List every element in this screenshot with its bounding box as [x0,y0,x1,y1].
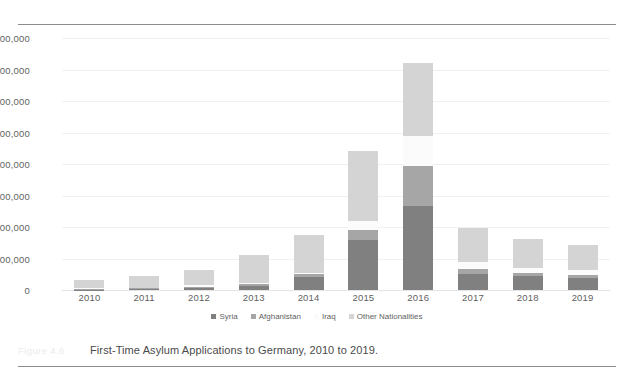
bar-2018 [513,239,543,290]
legend-item-other-nationalities[interactable]: Other Nationalities [349,312,423,321]
top-divider-rule [18,24,616,25]
y-tick-label: 100,000 [0,253,30,264]
x-tick-label-2014: 2014 [281,292,337,303]
bar-segment-syria [403,206,433,290]
legend-label: Iraq [322,312,336,321]
bar-segment-other-nationalities [184,270,214,285]
bar-2013 [239,255,269,290]
y-tick-label: 500,000 [0,127,30,138]
bar-segment-afghanistan [403,166,433,206]
x-tick-label-2013: 2013 [226,292,282,303]
legend-item-afghanistan[interactable]: Afghanistan [251,312,301,321]
legend-label: Afghanistan [259,312,301,321]
bar-segment-syria [513,276,543,290]
x-tick-label-2012: 2012 [171,292,227,303]
bar-segment-other-nationalities [568,245,598,270]
y-tick-label: 800,000 [0,33,30,44]
plot-area: 800,000700,000600,000500,000400,000300,0… [62,38,610,290]
bar-segment-other-nationalities [74,280,104,288]
x-tick-label-2018: 2018 [500,292,556,303]
bar-2016 [403,63,433,290]
bar-segment-syria [348,240,378,290]
y-tick-label: 0 [0,285,30,296]
x-tick-label-2015: 2015 [335,292,391,303]
x-tick-label-2016: 2016 [390,292,446,303]
y-tick-label: 300,000 [0,190,30,201]
x-tick-label-2017: 2017 [445,292,501,303]
legend-swatch-icon [349,314,354,319]
bar-segment-syria [129,289,159,290]
y-tick-label: 600,000 [0,96,30,107]
bar-segment-other-nationalities [348,151,378,221]
bar-segment-syria [239,286,269,290]
bar-segment-other-nationalities [129,276,159,288]
y-tick-label: 700,000 [0,64,30,75]
bar-segment-other-nationalities [294,235,324,272]
chart-area: 800,000700,000600,000500,000400,000300,0… [0,30,634,292]
legend-swatch-icon [251,314,256,319]
legend-item-syria[interactable]: Syria [211,312,237,321]
bar-segment-syria [184,288,214,290]
bar-2017 [458,228,488,290]
legend-item-iraq[interactable]: Iraq [314,312,336,321]
bar-2010 [74,280,104,290]
x-tick-label-2011: 2011 [116,292,172,303]
bar-segment-other-nationalities [403,63,433,136]
bar-segment-syria [458,274,488,290]
gridline [62,290,610,291]
bar-2019 [568,245,598,290]
bar-segment-other-nationalities [513,239,543,268]
bar-segment-afghanistan [348,230,378,240]
bar-2014 [294,235,324,290]
bar-2011 [129,276,159,290]
x-axis-tick-labels: 2010201120122013201420152016201720182019 [62,292,610,310]
chart-legend: SyriaAfghanistanIraqOther Nationalities [0,312,634,321]
bottom-divider-rule [18,366,616,367]
figure-number-label: Figure 4.6 [18,345,90,356]
legend-swatch-icon [314,314,319,319]
legend-label: Other Nationalities [357,312,423,321]
bar-segment-iraq [458,262,488,269]
legend-label: Syria [219,312,237,321]
bar-2015 [348,151,378,290]
figure-caption-text: First-Time Asylum Applications to German… [90,344,378,356]
bar-segment-syria [294,277,324,290]
y-tick-label: 400,000 [0,159,30,170]
bar-segment-other-nationalities [239,255,269,282]
y-tick-label: 200,000 [0,222,30,233]
bar-segment-iraq [348,221,378,230]
bar-segment-iraq [403,136,433,166]
figure-caption-row: Figure 4.6 First-Time Asylum Application… [18,344,616,356]
x-tick-label-2019: 2019 [555,292,611,303]
bars-group [62,38,610,290]
x-tick-label-2010: 2010 [61,292,117,303]
figure-container: 800,000700,000600,000500,000400,000300,0… [0,0,634,376]
legend-swatch-icon [211,314,216,319]
bar-segment-other-nationalities [458,228,488,263]
bar-2012 [184,270,214,290]
bar-segment-syria [568,278,598,290]
